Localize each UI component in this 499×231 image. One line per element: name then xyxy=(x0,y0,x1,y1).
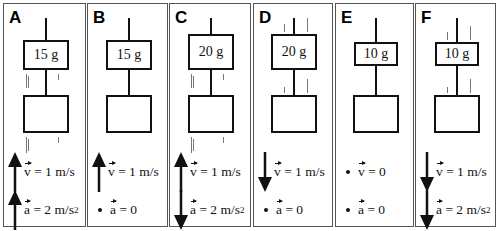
panel-e: E10 gv = 0a = 0 xyxy=(335,3,414,227)
middle-rope xyxy=(293,70,295,95)
panel-label: A xyxy=(9,8,21,28)
hanging-box xyxy=(271,95,317,133)
velocity-value: = 1 m/s xyxy=(34,164,75,180)
velocity-symbol: v xyxy=(436,164,443,180)
acceleration-row: a = 0 xyxy=(258,197,303,223)
acceleration-row: a = 2 m/s2 xyxy=(8,197,79,223)
acceleration-arrow-down-icon xyxy=(420,190,434,230)
mass-label: 20 g xyxy=(282,44,307,60)
acceleration-symbol: a xyxy=(436,202,442,218)
middle-rope xyxy=(456,66,458,95)
hanging-box xyxy=(106,95,152,133)
velocity-row: v = 1 m/s xyxy=(174,159,241,185)
middle-rope xyxy=(45,70,47,95)
acceleration-exponent: 2 xyxy=(74,205,79,215)
acceleration-symbol: a xyxy=(276,202,282,218)
velocity-arrow-up-icon xyxy=(174,152,188,192)
middle-rope xyxy=(128,70,130,95)
velocity-symbol: v xyxy=(24,164,31,180)
upper-rope xyxy=(128,18,130,40)
motion-line xyxy=(191,137,192,153)
upper-rope xyxy=(45,18,47,40)
acceleration-symbol: a xyxy=(358,202,364,218)
acceleration-exponent: 2 xyxy=(486,205,491,215)
velocity-symbol: v xyxy=(108,164,115,180)
acceleration-value: = 0 xyxy=(285,202,303,218)
zero-dot-icon xyxy=(346,208,350,212)
acceleration-value: = 0 xyxy=(119,202,137,218)
panel-label: B xyxy=(93,8,105,28)
acceleration-exponent: 2 xyxy=(240,205,245,215)
velocity-row: v = 1 m/s xyxy=(258,159,325,185)
velocity-arrow-down-icon xyxy=(258,152,272,192)
motion-line xyxy=(193,139,194,151)
upper-rope xyxy=(456,18,458,42)
motion-line xyxy=(58,74,59,80)
velocity-arrow-up-icon xyxy=(92,152,106,192)
velocity-value: = 0 xyxy=(368,164,386,180)
zero-dot-icon xyxy=(346,170,350,174)
acceleration-symbol: a xyxy=(110,202,116,218)
diagram-frame: A15 gv = 1 m/sa = 2 m/s2B15 gv = 1 m/sa … xyxy=(3,3,496,229)
acceleration-symbol: a xyxy=(190,202,196,218)
panel-b: B15 gv = 1 m/sa = 0 xyxy=(87,3,168,227)
velocity-row: v = 1 m/s xyxy=(420,159,487,185)
velocity-row: v = 1 m/s xyxy=(8,159,75,185)
acceleration-value: = 2 m/s xyxy=(199,202,240,218)
panel-d: D20 gv = 1 m/sa = 0 xyxy=(253,3,333,227)
motion-line xyxy=(58,137,59,143)
mass-box: 20 g xyxy=(188,34,234,70)
mass-box: 15 g xyxy=(106,40,152,70)
motion-line xyxy=(307,18,308,32)
panel-f: F10 gv = 1 m/sa = 2 m/s2 xyxy=(415,3,496,227)
velocity-symbol: v xyxy=(190,164,197,180)
middle-rope xyxy=(210,70,212,95)
acceleration-value: = 2 m/s xyxy=(445,202,486,218)
motion-line xyxy=(223,74,224,80)
velocity-row: v = 0 xyxy=(340,159,386,185)
hanging-box xyxy=(23,95,69,133)
velocity-symbol: v xyxy=(274,164,281,180)
mass-label: 15 g xyxy=(117,47,142,63)
panel-label: D xyxy=(259,8,271,28)
motion-line xyxy=(223,137,224,143)
upper-rope xyxy=(375,18,377,42)
mass-label: 10 g xyxy=(364,46,389,62)
motion-line xyxy=(193,76,194,88)
motion-line xyxy=(28,76,29,88)
motion-line xyxy=(26,74,27,88)
acceleration-arrow-up-icon xyxy=(8,190,22,230)
velocity-value: = 1 m/s xyxy=(446,164,487,180)
panel-label: C xyxy=(175,8,187,28)
mass-label: 15 g xyxy=(34,47,59,63)
acceleration-value: = 2 m/s xyxy=(33,202,74,218)
acceleration-symbol: a xyxy=(24,202,30,218)
panel-label: F xyxy=(421,8,431,28)
velocity-symbol: v xyxy=(358,164,365,180)
motion-line xyxy=(284,87,285,93)
motion-line xyxy=(191,74,192,88)
mass-box: 10 g xyxy=(354,42,398,66)
middle-rope xyxy=(375,66,377,95)
velocity-arrow-down-icon xyxy=(420,152,434,192)
motion-line xyxy=(447,87,448,93)
velocity-arrow-up-icon xyxy=(8,152,22,192)
upper-rope xyxy=(293,18,295,34)
panel-a: A15 gv = 1 m/sa = 2 m/s2 xyxy=(3,3,86,227)
acceleration-row: a = 0 xyxy=(92,197,137,223)
motion-line xyxy=(284,24,285,32)
mass-label: 10 g xyxy=(445,46,470,62)
velocity-value: = 1 m/s xyxy=(200,164,241,180)
motion-line xyxy=(28,139,29,151)
velocity-value: = 1 m/s xyxy=(284,164,325,180)
panel-c: C20 gv = 1 m/sa = 2 m/s2 xyxy=(169,3,251,227)
zero-dot-icon xyxy=(264,208,268,212)
upper-rope xyxy=(210,18,212,34)
hanging-box xyxy=(353,95,399,133)
hanging-box xyxy=(434,95,480,133)
velocity-row: v = 1 m/s xyxy=(92,159,159,185)
acceleration-row: a = 0 xyxy=(340,197,385,223)
motion-line xyxy=(26,137,27,153)
mass-box: 20 g xyxy=(271,34,317,70)
motion-line xyxy=(470,79,471,93)
